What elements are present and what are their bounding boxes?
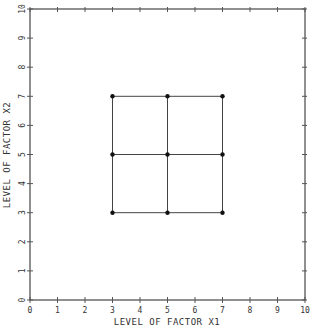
x-tick-label: 3 — [110, 306, 115, 315]
x-tick-label: 4 — [138, 306, 143, 315]
x-tick-label: 9 — [275, 306, 280, 315]
x-tick-label: 6 — [193, 306, 198, 315]
y-tick-label: 5 — [18, 152, 27, 157]
y-tick-label: 1 — [18, 268, 27, 273]
y-tick-label: 0 — [18, 297, 27, 302]
x-tick-label: 1 — [55, 306, 60, 315]
x-tick-label: 8 — [248, 306, 253, 315]
design-point — [165, 94, 169, 98]
design-point — [110, 211, 114, 215]
design-point — [220, 152, 224, 156]
design-point — [220, 94, 224, 98]
x-axis-title: LEVEL OF FACTOR X1 — [114, 317, 221, 327]
design-point — [165, 211, 169, 215]
y-tick-label: 3 — [18, 210, 27, 215]
y-tick-label: 6 — [18, 123, 27, 128]
y-tick-label: 7 — [18, 94, 27, 99]
x-tick-label: 10 — [300, 306, 310, 315]
y-tick-label: 8 — [18, 65, 27, 70]
x-tick-labels: 012345678910 — [28, 306, 310, 315]
x-tick-label: 5 — [165, 306, 170, 315]
design-point — [220, 211, 224, 215]
y-axis-title: LEVEL OF FACTOR X2 — [2, 102, 12, 209]
y-tick-label: 9 — [18, 36, 27, 41]
design-point — [165, 152, 169, 156]
x-tick-label: 2 — [83, 306, 88, 315]
x-tick-label: 7 — [220, 306, 225, 315]
design-point — [110, 94, 114, 98]
x-tick-label: 0 — [28, 306, 33, 315]
y-tick-label: 4 — [18, 181, 27, 186]
factorial-design-chart: 012345678910 012345678910 LEVEL OF FACTO… — [0, 0, 314, 329]
design-point — [110, 152, 114, 156]
y-tick-labels: 012345678910 — [18, 4, 27, 302]
y-tick-label: 2 — [18, 239, 27, 244]
y-tick-label: 10 — [18, 4, 27, 14]
